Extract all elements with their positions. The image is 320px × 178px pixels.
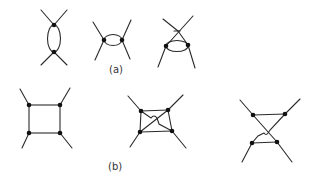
vertex-dot: [58, 103, 63, 108]
vertex-dot: [52, 50, 57, 55]
feynman-diagrams-figure: [0, 0, 320, 178]
vertex-dot: [27, 103, 32, 108]
vertex-dot: [138, 130, 143, 135]
crossed-bubble-diagram: [158, 16, 195, 68]
vertex-dot: [52, 23, 57, 28]
row-a-label: (a): [109, 64, 123, 75]
vertex-dot: [27, 131, 32, 136]
vertex-dot: [139, 109, 144, 114]
horizontal-bubble-diagram: [93, 20, 131, 60]
crossed-box-diagram: [128, 95, 186, 148]
vertex-dot: [170, 129, 175, 134]
vertex-dot: [251, 113, 256, 118]
vertex-dot: [120, 38, 125, 43]
vertex-dot: [250, 141, 255, 146]
box-diagram: [20, 88, 72, 148]
vertex-dot: [186, 43, 191, 48]
vertex-dot: [275, 140, 280, 145]
vertical-bubble-diagram: [41, 10, 67, 65]
row-b-label: (b): [108, 161, 122, 172]
vertex-dot: [166, 108, 171, 113]
vertex-dot: [58, 131, 63, 136]
vertex-dot: [102, 38, 107, 43]
twisted-box-diagram: [240, 99, 300, 162]
vertex-dot: [283, 112, 288, 117]
vertex-dot: [164, 44, 169, 49]
